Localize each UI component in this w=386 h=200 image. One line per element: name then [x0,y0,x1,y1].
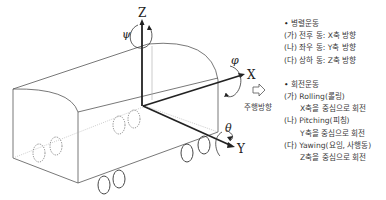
rotation-item-name: (다) Yawing(요잉, 사행동) [284,140,386,152]
hidden-lines [13,46,218,158]
pitch-symbol: θ [225,122,232,135]
travel-direction-label: 주행방향 [244,102,272,112]
translation-item: (가) 전후 동: X축 방향 [284,30,386,42]
bullet-icon: • [284,80,291,89]
y-axis-label: Y [236,142,246,156]
rotation-item-name: (가) Rolling(롤링) [284,91,386,103]
rotation-title: • 회전운동 [284,79,386,91]
x-axis-label: X [247,68,256,82]
y-axis [143,106,232,146]
rotation-item-name: (나) Pitching(피칭) [284,115,386,127]
z-axis-label: Z [138,6,146,20]
x-axis [143,75,242,106]
hidden-wheels [33,110,140,162]
translation-item: (다) 상하 동: Z축 방향 [284,55,386,67]
rotation-item-desc: Z축을 중심으로 회전 [284,152,386,164]
translation-item: (나) 좌우 동: Y축 방향 [284,42,386,54]
bullet-icon: • [284,19,291,28]
rotation-item-desc: X축을 중심으로 회전 [284,103,386,115]
rotation-arrowheads [147,25,233,141]
translation-title: • 병렬운동 [284,18,386,30]
yaw-symbol: ψ [122,28,131,41]
roll-symbol: φ [231,54,239,67]
travel-direction-arrow-icon [253,84,265,96]
rotation-item-desc: Y축을 중심으로 회전 [284,128,386,140]
visible-wheels [98,136,210,194]
motion-legend: • 병렬운동 (가) 전후 동: X축 방향 (나) 좌우 동: Y축 방향 (… [284,18,386,164]
